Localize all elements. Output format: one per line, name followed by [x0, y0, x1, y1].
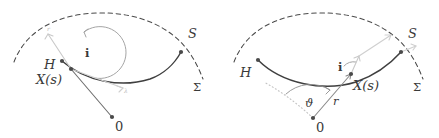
panel-left-canvas: [0, 0, 219, 138]
geometry-figure: H X(s) S Σ 0 i r λ: [0, 0, 439, 138]
point-h: [60, 59, 64, 63]
faint-tangent-at-x: [351, 56, 359, 74]
point-origin: [311, 116, 315, 120]
label-s: S: [408, 27, 417, 40]
label-radius-r: r: [333, 96, 339, 108]
faint-vector-lambda-arrowhead: [117, 86, 123, 92]
label-origin: 0: [115, 120, 123, 133]
label-sigma: Σ: [413, 82, 421, 94]
point-h: [256, 58, 260, 62]
label-angle-i: i: [338, 62, 342, 74]
dashed-curve-sigma: [14, 13, 203, 79]
solid-curve-geodesic: [258, 52, 401, 86]
point-origin: [110, 115, 114, 119]
label-angle-i: i: [85, 48, 89, 60]
label-faint-r: r: [47, 26, 50, 32]
point-x-of-s: [69, 67, 73, 71]
faint-vector-to-s: [359, 35, 391, 56]
panel-right-canvas: [220, 0, 439, 138]
label-x-of-s: X(s): [36, 73, 62, 86]
point-s: [179, 50, 183, 54]
label-angle-theta: ϑ: [305, 98, 313, 110]
diagram-panel-right: H X(s) S Σ 0 i ϑ r: [220, 0, 439, 138]
label-origin: 0: [316, 121, 324, 134]
label-x-of-s: X(s): [353, 79, 379, 92]
label-faint-lambda: λ: [124, 88, 128, 94]
label-sigma: Σ: [193, 82, 201, 94]
angle-arc-i: [344, 62, 356, 66]
point-s: [399, 50, 403, 54]
label-s: S: [188, 27, 197, 40]
label-h: H: [44, 58, 55, 71]
diagram-panel-left: H X(s) S Σ 0 i r λ: [0, 0, 219, 138]
dashed-curve-sigma: [234, 13, 423, 79]
label-h: H: [240, 66, 251, 79]
point-x-of-s: [349, 72, 353, 76]
radius-line-r: [313, 74, 351, 118]
angle-arc-i: [84, 26, 126, 78]
